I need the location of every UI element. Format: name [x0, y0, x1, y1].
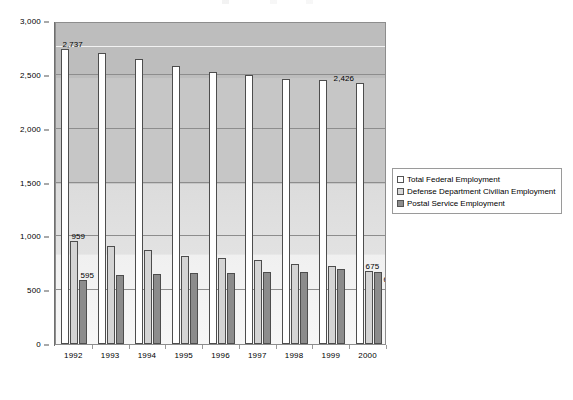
bar	[98, 53, 106, 344]
bar	[300, 272, 308, 344]
bar	[328, 266, 336, 344]
x-tick-label: 1994	[138, 352, 157, 360]
bar-value-label: 959	[71, 233, 85, 241]
x-tick-mark	[202, 345, 203, 349]
x-tick-mark	[276, 345, 277, 349]
bar	[209, 72, 217, 345]
x-tick-mark	[312, 345, 313, 349]
bar	[144, 250, 152, 344]
legend-swatch-icon	[397, 200, 404, 207]
bar	[282, 79, 290, 344]
bar	[190, 273, 198, 344]
x-axis: 199219931994199519961997199819992000	[55, 352, 386, 368]
legend-swatch-icon	[397, 188, 404, 195]
y-tick-mark	[44, 183, 49, 184]
x-tick-mark	[129, 345, 130, 349]
legend-label: Total Federal Employment	[407, 175, 500, 184]
y-tick-label: 1,000	[20, 233, 41, 241]
x-tick-label: 1995	[174, 352, 193, 360]
x-tick-label: 1999	[322, 352, 341, 360]
bar-value-label: 2,737	[62, 41, 83, 49]
bar	[181, 256, 189, 345]
bar-value-label: 2,426	[334, 75, 355, 83]
legend-item[interactable]: Total Federal Employment	[397, 173, 556, 185]
y-tick-mark	[44, 129, 49, 130]
bar	[319, 80, 327, 344]
x-tick-label: 1997	[248, 352, 267, 360]
bar	[116, 275, 124, 344]
x-tick-label: 1992	[64, 352, 83, 360]
x-tick-label: 1996	[211, 352, 230, 360]
y-tick-label: 3,000	[20, 18, 41, 26]
y-tick-mark	[44, 22, 49, 23]
bar	[70, 241, 78, 344]
bar	[365, 271, 373, 344]
bar-value-label: 672	[384, 276, 386, 284]
y-tick-label: 2,000	[20, 126, 41, 134]
legend-label: Postal Service Employment	[407, 199, 505, 208]
bar	[61, 49, 69, 344]
x-tick-label: 2000	[358, 352, 377, 360]
bar	[245, 75, 253, 344]
y-tick-mark	[44, 75, 49, 76]
bar	[356, 83, 364, 344]
bar	[263, 272, 271, 344]
y-tick-label: 2,500	[20, 72, 41, 80]
plot-area: 2,7372,426959675595672	[55, 22, 386, 345]
bar	[337, 269, 345, 344]
bar	[135, 59, 143, 344]
y-tick-label: 0	[36, 341, 41, 349]
y-tick-mark	[44, 237, 49, 238]
bar	[374, 272, 382, 344]
legend-swatch-icon	[397, 176, 404, 183]
bar	[218, 258, 226, 344]
bar-value-label: 595	[80, 272, 94, 280]
bar-chart: 05001,0001,5002,0002,5003,000 2,7372,426…	[0, 0, 573, 400]
y-axis: 05001,0001,5002,0002,5003,000	[0, 22, 49, 345]
x-tick-mark	[239, 345, 240, 349]
gridline-highlight	[56, 46, 385, 47]
legend-item[interactable]: Postal Service Employment	[397, 197, 556, 209]
bar	[227, 273, 235, 344]
y-tick-mark	[44, 345, 49, 346]
x-tick-label: 1993	[101, 352, 120, 360]
bar	[172, 66, 180, 344]
y-tick-label: 1,500	[20, 180, 41, 188]
bar	[254, 260, 262, 344]
bar	[79, 280, 87, 344]
bar	[107, 246, 115, 344]
bar	[291, 264, 299, 344]
chart-legend: Total Federal EmploymentDefense Departme…	[392, 168, 562, 214]
x-tick-mark	[349, 345, 350, 349]
bar-value-label: 675	[366, 263, 380, 271]
bar	[153, 274, 161, 344]
y-tick-label: 500	[27, 287, 41, 295]
legend-item[interactable]: Defense Department Civilian Employment	[397, 185, 556, 197]
scan-artifact	[222, 0, 342, 4]
y-tick-mark	[44, 291, 49, 292]
x-tick-label: 1998	[285, 352, 304, 360]
legend-label: Defense Department Civilian Employment	[407, 187, 556, 196]
x-tick-mark	[386, 345, 387, 349]
x-tick-mark	[165, 345, 166, 349]
x-tick-mark	[92, 345, 93, 349]
